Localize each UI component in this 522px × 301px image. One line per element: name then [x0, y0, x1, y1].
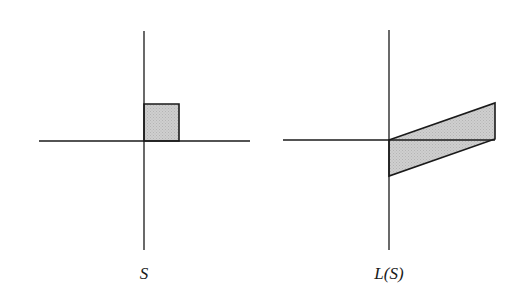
caption-s: S: [140, 264, 149, 284]
caption-ls: L(S): [374, 264, 403, 284]
square-region-s: [144, 104, 179, 141]
linear-transformation-figure: [0, 0, 522, 301]
panel-transformed: [283, 30, 495, 250]
panel-original: [39, 31, 250, 250]
